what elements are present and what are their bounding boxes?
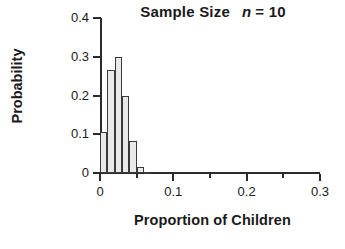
histogram-bar [129, 141, 136, 173]
x-axis-tick-label: 0.1 [150, 184, 196, 199]
histogram-bar [115, 57, 122, 173]
histogram-bar [144, 172, 151, 174]
x-axis-minor-tick [282, 174, 284, 178]
y-axis-tick-label: 0.3 [45, 49, 89, 64]
x-axis-tick-label: 0.2 [224, 184, 270, 199]
y-axis-tick-label: 0 [45, 165, 89, 180]
histogram-bar [122, 96, 129, 174]
x-axis-minor-tick [209, 174, 211, 178]
histogram-bar [100, 132, 107, 173]
x-axis-tick [319, 174, 321, 181]
y-axis-tick-label: 0.2 [45, 88, 89, 103]
y-axis-tick [93, 95, 101, 97]
x-axis-tick-label: 0 [77, 184, 123, 199]
x-axis-tick [246, 174, 248, 181]
y-axis-tick [93, 56, 101, 58]
x-axis-tick [99, 174, 101, 181]
x-axis-tick [172, 174, 174, 181]
y-axis-tick-label: 0.1 [45, 126, 89, 141]
y-axis-tick [93, 17, 101, 19]
y-axis-tick-label: 0.4 [45, 10, 89, 25]
histogram-bar [107, 70, 114, 173]
y-axis-tick [93, 133, 101, 135]
x-axis-minor-tick [136, 174, 138, 178]
histogram-bar [137, 167, 144, 173]
histogram-chart: Sample Sizen= 10 Probability Proportion … [0, 0, 345, 249]
x-axis-tick-label: 0.3 [297, 184, 343, 199]
bars-layer [0, 0, 345, 249]
